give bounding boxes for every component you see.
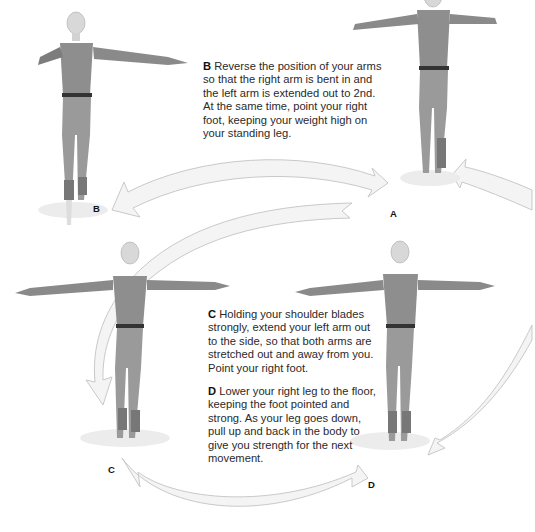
caption-c-text: Holding your shoulder blades strongly, e… <box>208 308 373 374</box>
caption-b-text: Reverse the position of your arms so tha… <box>203 60 381 139</box>
figure-label-d: D <box>368 479 375 490</box>
figure-label-b: B <box>93 203 100 214</box>
caption-c-letter: C <box>208 308 216 320</box>
figure-label-c: C <box>108 464 115 475</box>
caption-c: C Holding your shoulder blades strongly,… <box>208 308 380 375</box>
figure-b <box>18 5 188 235</box>
caption-d: D Lower your right leg to the floor, kee… <box>208 385 380 465</box>
caption-b-letter: B <box>203 60 211 72</box>
figure-label-a: A <box>390 208 397 219</box>
caption-cd: C Holding your shoulder blades strongly,… <box>208 308 380 475</box>
caption-b: B Reverse the position of your arms so t… <box>203 60 383 150</box>
caption-d-text: Lower your right leg to the floor, keepi… <box>208 385 376 464</box>
caption-d-letter: D <box>208 385 216 397</box>
